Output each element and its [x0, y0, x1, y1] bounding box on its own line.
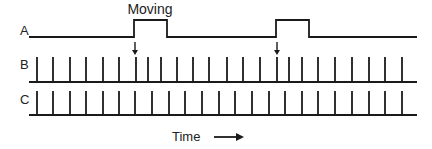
down-arrow-icon	[132, 50, 138, 55]
spike-timing-diagram: A B C Moving Time	[0, 0, 432, 149]
moving-event-label: Moving	[127, 1, 172, 17]
trace-c-spike-train	[29, 91, 417, 115]
time-axis-label: Time	[172, 129, 200, 144]
diagram-canvas: A B C Moving Time	[0, 0, 432, 149]
row-label-c: C	[20, 92, 29, 107]
trace-b-spike-train	[29, 57, 417, 82]
row-label-b: B	[20, 57, 29, 72]
trace-a-step-signal	[29, 20, 417, 37]
down-arrow-icon	[274, 50, 280, 55]
event-arrows	[132, 42, 280, 55]
row-label-a: A	[20, 23, 29, 38]
